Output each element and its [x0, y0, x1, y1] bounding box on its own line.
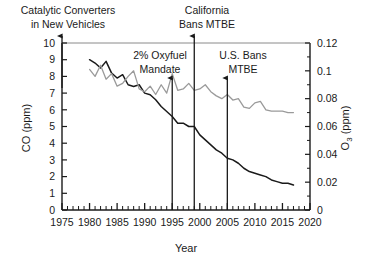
- right-axis-title: O3 (ppm): [339, 106, 354, 151]
- right-tick-label: 0.06: [317, 120, 338, 132]
- left-tick-label: 4: [49, 137, 55, 149]
- right-tick-label: 0: [317, 204, 323, 216]
- left-tick-label: 6: [49, 104, 55, 116]
- callout-catalytic-line1: Catalytic Converters: [21, 4, 116, 16]
- callout-california-line2: Bans MTBE: [179, 18, 235, 30]
- left-tick-label: 0: [49, 204, 55, 216]
- x-axis-ticks: 1975198019851990199520002005201020152020: [50, 203, 322, 228]
- callout-usbans-line1: U.S. Bans: [219, 49, 266, 61]
- x-axis-title: Year: [175, 242, 198, 254]
- x-tick-label: 2015: [271, 216, 295, 228]
- right-tick-label: 0.12: [317, 37, 338, 49]
- left-axis-title: CO (ppm): [20, 104, 32, 152]
- callout-labels: Catalytic Converters in New Vehicles Cal…: [21, 4, 267, 75]
- callout-catalytic-line2: in New Vehicles: [31, 18, 105, 30]
- left-tick-label: 2: [49, 170, 55, 182]
- x-tick-label: 1985: [105, 216, 129, 228]
- x-tick-label: 1980: [78, 216, 102, 228]
- left-tick-label: 3: [49, 154, 55, 166]
- x-tick-label: 2000: [188, 216, 212, 228]
- right-tick-label: 0.02: [317, 176, 338, 188]
- callout-oxyfuel-line1: 2% Oxyfuel: [133, 49, 187, 61]
- left-tick-label: 9: [49, 53, 55, 65]
- x-tick-label: 1975: [50, 216, 74, 228]
- left-tick-label: 7: [49, 87, 55, 99]
- right-tick-label: 0.1: [317, 65, 332, 77]
- x-tick-label: 2020: [298, 216, 322, 228]
- data-series-layer: [90, 60, 294, 185]
- series-line-left: [90, 60, 294, 185]
- right-tick-label: 0.08: [317, 92, 338, 104]
- co-o3-trend-chart: 012345678910 00.020.040.060.080.10.12 19…: [0, 0, 366, 263]
- left-tick-label: 8: [49, 70, 55, 82]
- x-tick-label: 1995: [161, 216, 185, 228]
- x-tick-label: 2005: [216, 216, 240, 228]
- chart-figure: 012345678910 00.020.040.060.080.10.12 19…: [0, 0, 366, 263]
- x-tick-label: 2010: [243, 216, 267, 228]
- callout-california-line1: California: [185, 4, 230, 16]
- left-tick-label: 10: [43, 37, 55, 49]
- x-tick-label: 1990: [133, 216, 157, 228]
- callout-oxyfuel-line2: Mandate: [140, 63, 181, 75]
- left-tick-label: 1: [49, 187, 55, 199]
- left-axis-ticks: 012345678910: [43, 37, 67, 216]
- left-tick-label: 5: [49, 120, 55, 132]
- callout-usbans-line2: MTBE: [228, 63, 257, 75]
- right-tick-label: 0.04: [317, 148, 338, 160]
- series-line-right: [90, 65, 294, 112]
- right-axis-title-units: (ppm): [339, 106, 351, 138]
